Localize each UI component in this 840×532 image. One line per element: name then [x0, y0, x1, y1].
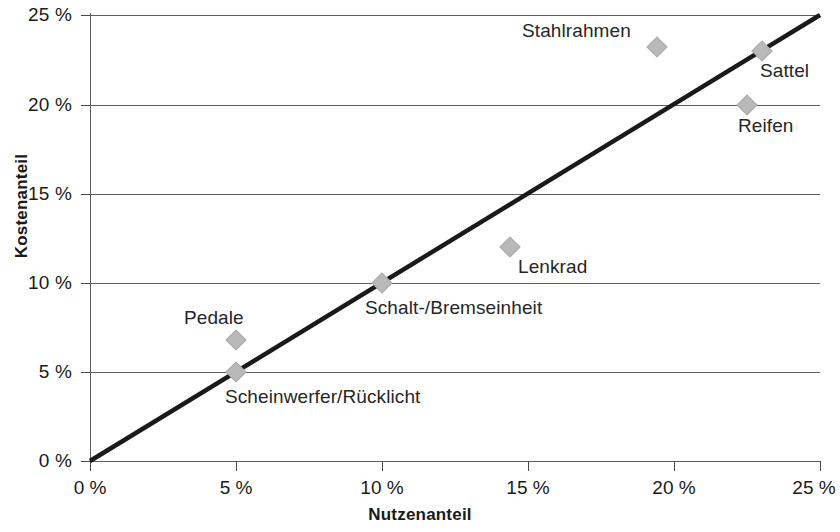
x-tick-mark-15 [528, 461, 529, 471]
plot-area [90, 15, 820, 461]
x-tick-mark-20 [674, 461, 675, 471]
point-label-reifen: Reifen [738, 115, 794, 137]
x-tick-label-5: 5 % [220, 477, 253, 499]
point-label-schalt-bremseinheit: Schalt-/Bremseinheit [365, 297, 542, 319]
point-label-lenkrad: Lenkrad [518, 256, 587, 278]
x-axis-line [90, 461, 821, 462]
y-axis-title: Kostenanteil [12, 91, 32, 321]
scatter-chart: 25 % 20 % 15 % 10 % 5 % 0 % 0 % 5 % 10 %… [0, 0, 840, 532]
point-label-stahlrahmen: Stahlrahmen [522, 20, 631, 42]
y-tick-label-5: 5 % [0, 361, 72, 383]
y-tick-mark-0 [81, 461, 90, 462]
x-tick-label-20: 20 % [652, 477, 695, 499]
gridline-5 [90, 372, 820, 373]
y-tick-mark-5 [81, 372, 90, 373]
x-tick-label-0: 0 % [74, 477, 107, 499]
point-label-sattel: Sattel [760, 60, 809, 82]
gridline-15 [90, 194, 820, 195]
x-tick-mark-0 [90, 461, 91, 471]
x-tick-label-25: 25 % [792, 477, 835, 499]
gridline-20 [90, 105, 820, 106]
y-axis-line [90, 13, 91, 463]
gridline-10 [90, 283, 820, 284]
y-tick-label-15: 15 % [0, 183, 72, 205]
y-tick-mark-25 [81, 15, 90, 16]
y-tick-mark-10 [81, 283, 90, 284]
point-label-scheinwerfer-ruecklicht: Scheinwerfer/Rücklicht [225, 386, 420, 408]
gridline-25 [90, 15, 820, 16]
y-tick-label-25: 25 % [0, 4, 72, 26]
x-tick-mark-25 [820, 461, 821, 471]
x-tick-label-10: 10 % [360, 477, 403, 499]
point-label-pedale: Pedale [184, 307, 244, 329]
y-tick-label-20: 20 % [0, 94, 72, 116]
y-tick-label-10: 10 % [0, 272, 72, 294]
x-tick-label-15: 15 % [506, 477, 549, 499]
y-tick-mark-15 [81, 194, 90, 195]
x-tick-mark-5 [236, 461, 237, 471]
x-axis-title: Nutzenanteil [0, 505, 840, 525]
y-tick-mark-20 [81, 105, 90, 106]
y-tick-label-0: 0 % [0, 450, 72, 472]
x-tick-mark-10 [382, 461, 383, 471]
